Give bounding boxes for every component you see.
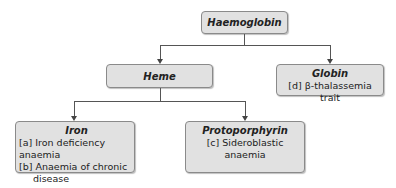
node-title: Iron: [19, 125, 134, 137]
node-title: Protoporphyrin: [186, 125, 304, 137]
connector-to-iron: [74, 101, 75, 116]
node-title: Haemoglobin: [202, 17, 287, 29]
connector-heme-down: [160, 88, 161, 101]
node-heme: Heme: [106, 64, 213, 88]
node-title: Globin: [277, 68, 383, 80]
node-item: disease: [19, 173, 134, 185]
connector-to-protoporphyrin: [245, 101, 246, 116]
node-globin: Globin [d] β-thalassemia trait: [276, 64, 384, 96]
node-item: [b] Anaemia of chronic: [19, 161, 134, 173]
node-title: Heme: [107, 71, 212, 83]
node-haemoglobin: Haemoglobin: [201, 11, 288, 34]
node-iron: Iron [a] Iron deficiency anaemia [b] Ana…: [15, 121, 135, 173]
node-item: [a] Iron deficiency anaemia: [19, 137, 134, 161]
node-protoporphyrin: Protoporphyrin [c] Sideroblastic anaemia: [185, 121, 305, 173]
connector-heme-horizontal: [74, 101, 246, 102]
connector-root-down: [244, 34, 245, 45]
connector-root-horizontal: [160, 45, 331, 46]
connector-to-globin: [330, 45, 331, 59]
node-item: [d] β-thalassemia trait: [277, 80, 383, 104]
node-item: [c] Sideroblastic anaemia: [186, 137, 304, 161]
connector-to-heme: [160, 45, 161, 59]
